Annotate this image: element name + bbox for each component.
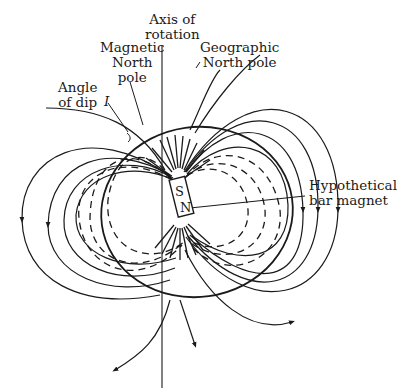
magnetic-north-leader <box>130 82 143 125</box>
angle-of-dip-leader <box>108 103 128 132</box>
bar-magnet-label: Hypothetical bar magnet <box>309 178 397 208</box>
angle-of-dip-label: Angle of dip <box>58 80 97 110</box>
angle-symbol-label: I <box>104 94 109 109</box>
label-line: North <box>100 55 165 70</box>
label-line: Axis of <box>145 12 200 27</box>
label-line: pole <box>100 70 165 85</box>
label-line: Magnetic <box>100 40 165 55</box>
magnetic-north-pole-label: Magnetic North pole <box>100 40 165 85</box>
label-line: Geographic <box>200 40 279 55</box>
magnet-south-label: S <box>175 184 184 199</box>
magnet-north-label: N <box>180 200 191 215</box>
external-field-lines-left <box>22 108 176 299</box>
field-line-top-1 <box>190 70 220 130</box>
field-line-bottom-2 <box>180 300 195 345</box>
axis-of-rotation-label: Axis of rotation <box>145 12 200 42</box>
angle-of-dip-arc <box>127 133 130 142</box>
label-line: of dip <box>58 95 97 110</box>
label-line: North pole <box>200 55 279 70</box>
label-line: Hypothetical <box>309 178 397 193</box>
geographic-north-pole-label: Geographic North pole <box>200 40 279 70</box>
label-line: bar magnet <box>309 193 397 208</box>
label-line: Angle <box>58 80 97 95</box>
